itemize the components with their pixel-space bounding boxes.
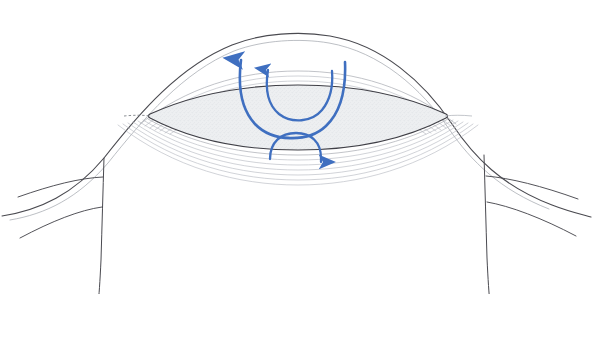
figure-page: 入り、そのまま前後に前後し、後部は後部子宮と壁に縫合する。 <box>0 0 593 354</box>
anatomical-diagram <box>0 0 593 354</box>
figure-background <box>0 0 593 354</box>
